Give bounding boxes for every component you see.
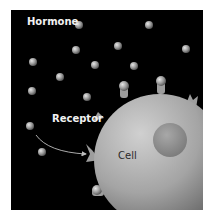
- cell-label: Cell: [118, 150, 137, 161]
- diagram-svg: [11, 10, 203, 210]
- nucleus: [153, 123, 187, 157]
- receptor-label: Receptor: [52, 113, 103, 124]
- hormone-label: Hormone: [27, 16, 78, 27]
- diagram-panel: Hormone Receptor Cell: [11, 10, 203, 210]
- cell-body: [94, 94, 203, 210]
